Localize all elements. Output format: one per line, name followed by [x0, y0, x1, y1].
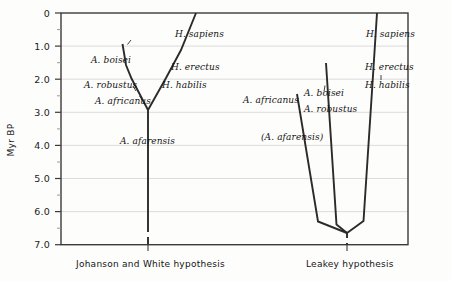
label-left-h-sapiens: H. sapiens	[174, 29, 224, 39]
y-tick-label-3: 3.0	[34, 107, 50, 118]
label-left-a-boisei: A. boisei	[90, 55, 131, 65]
panel-caption-leakey: Leakey hypothesis	[306, 259, 394, 269]
label-left-a-afarensis: A. afarensis	[119, 136, 175, 146]
y-tick-label-6: 6.0	[34, 206, 50, 217]
plot-frame	[61, 13, 408, 245]
label-right-a-africanus: A. africanus	[242, 95, 299, 105]
y-tick-label-5: 5.0	[34, 173, 50, 184]
y-tick-label-4: 4.0	[34, 140, 50, 151]
figure-container: 0 1.0 2.0 3.0 4.0 5.0 6.0 7.0 Myr BP H. …	[0, 0, 452, 281]
phylogeny-figure: 0 1.0 2.0 3.0 4.0 5.0 6.0 7.0 Myr BP H. …	[0, 0, 452, 281]
y-tick-label-1: 1.0	[34, 41, 50, 52]
leader-left-a-boisei	[128, 40, 132, 45]
label-right-h-sapiens: H. sapiens	[365, 29, 415, 39]
label-left-a-robustus: A. robustus	[83, 80, 138, 90]
label-right-a-afarensis: (A. afarensis)	[261, 132, 324, 142]
label-right-a-robustus: A. robustus	[303, 104, 358, 114]
gridlines	[61, 46, 408, 212]
label-right-h-erectus: H. erectus	[364, 62, 414, 72]
y-axis-title: Myr BP	[6, 123, 16, 156]
panel-johanson-white	[123, 13, 197, 244]
panel-leakey	[297, 13, 381, 245]
panel-caption-johanson-white: Johanson and White hypothesis	[75, 259, 225, 269]
label-right-a-boisei: A. boisei	[303, 88, 344, 98]
label-right-h-habilis: H. habilis	[364, 80, 410, 90]
y-tick-label-7: 7.0	[34, 239, 50, 250]
label-left-h-erectus: H. erectus	[170, 62, 220, 72]
y-tick-label-2: 2.0	[34, 74, 50, 85]
label-left-h-habilis: H. habilis	[161, 80, 207, 90]
lineage-right-a-africanus	[297, 94, 347, 233]
y-tick-label-0: 0	[44, 8, 50, 19]
label-left-a-africanus: A. africanus	[94, 96, 151, 106]
panel-divider-ticks	[148, 245, 347, 251]
